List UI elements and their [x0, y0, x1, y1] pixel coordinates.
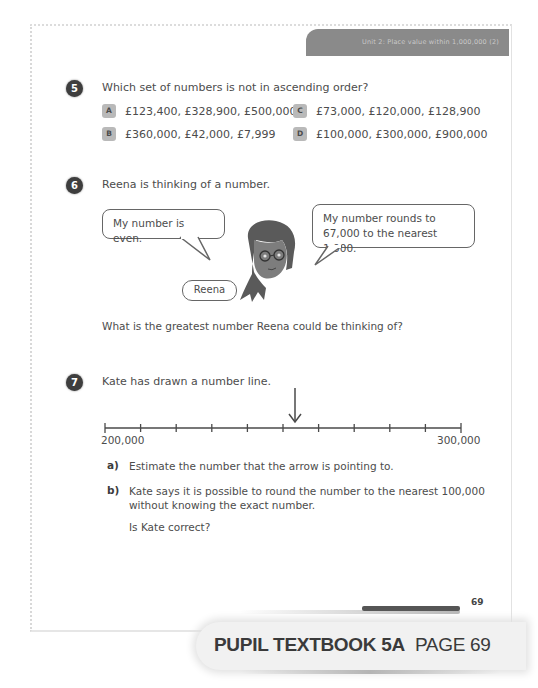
- option-b: B £360,000, £42,000, £7,999: [102, 127, 275, 141]
- option-badge-a: A: [102, 104, 116, 118]
- down-arrow-icon: [289, 388, 301, 422]
- question-number-6: 6: [66, 177, 83, 194]
- speech-bubble-tail-right: [312, 245, 348, 267]
- unit-header-band: Unit 2: Place value within 1,000,000 (2): [306, 29, 509, 56]
- number-line-end-label: 300,000: [437, 434, 480, 446]
- option-a: A £123,400, £328,900, £500,000: [102, 104, 296, 118]
- option-d-value: £100,000, £300,000, £900,000: [316, 128, 487, 141]
- speech-bubble-even: My number is even.: [102, 209, 225, 239]
- character-name: Reena: [194, 284, 225, 295]
- number-line: [96, 384, 466, 434]
- footer-bar: [362, 606, 460, 611]
- speech-bubble-tail-left: [178, 236, 214, 262]
- question-number-label: 6: [71, 180, 78, 191]
- banner-page-ref: PAGE 69: [415, 634, 491, 655]
- part-b-follow-up: Is Kate correct?: [129, 520, 210, 535]
- option-a-value: £123,400, £328,900, £500,000: [125, 105, 296, 118]
- part-a-text: Estimate the number that the arrow is po…: [129, 459, 394, 474]
- number-line-start-label: 200,000: [101, 434, 144, 446]
- speech-bubble-line-1: My number rounds to: [323, 211, 464, 226]
- banner-book-title: PUPIL TEXTBOOK 5A: [214, 634, 405, 655]
- question-6-text: Reena is thinking of a number.: [102, 178, 270, 191]
- part-b-text-line-2: without knowing the exact number.: [129, 498, 315, 513]
- option-badge-c: C: [293, 104, 307, 118]
- option-badge-b: B: [102, 127, 116, 141]
- option-c: C £73,000, £120,000, £128,900: [293, 104, 480, 118]
- speech-bubble-rounds: My number rounds to 67,000 to the neares…: [312, 204, 475, 248]
- part-b-letter: b): [107, 484, 119, 496]
- option-c-value: £73,000, £120,000, £128,900: [316, 105, 480, 118]
- question-number-label: 5: [71, 83, 78, 94]
- question-6-follow-up: What is the greatest number Reena could …: [102, 320, 403, 332]
- option-badge-d: D: [293, 127, 307, 141]
- option-d: D £100,000, £300,000, £900,000: [293, 127, 487, 141]
- part-a-letter: a): [107, 459, 119, 471]
- reena-character-illustration: [236, 218, 302, 302]
- question-5-text: Which set of numbers is not in ascending…: [102, 81, 368, 94]
- part-b-text-line-1: Kate says it is possible to round the nu…: [129, 484, 485, 499]
- question-number-label: 7: [71, 377, 78, 388]
- option-b-value: £360,000, £42,000, £7,999: [125, 128, 275, 141]
- character-name-label: Reena: [182, 280, 237, 301]
- question-number-5: 5: [66, 80, 83, 97]
- question-number-7: 7: [66, 374, 83, 391]
- banner-text: PUPIL TEXTBOOK 5A PAGE 69: [214, 634, 491, 656]
- banner-underline-shadow: [240, 670, 500, 674]
- unit-title: Unit 2: Place value within 1,000,000 (2): [362, 38, 499, 46]
- page-number: 69: [471, 597, 484, 607]
